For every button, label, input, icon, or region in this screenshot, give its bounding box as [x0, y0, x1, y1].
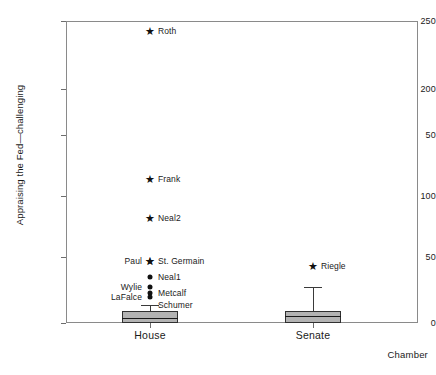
median-senate	[285, 316, 341, 317]
plot-area	[66, 21, 418, 323]
whisker-cap-house	[141, 305, 159, 306]
median-house	[122, 318, 178, 319]
x-axis-title: Chamber	[388, 350, 428, 360]
outlier-label: Riegle	[321, 262, 346, 271]
outlier-dot-icon	[148, 274, 153, 279]
x-tick-label-house: House	[134, 330, 165, 341]
outlier-label: LaFalce	[111, 292, 142, 301]
outlier-star-icon: ★	[308, 261, 318, 272]
outlier-star-icon: ★	[145, 255, 155, 266]
outlier-label: Neal2	[158, 213, 181, 222]
outlier-star-icon: ★	[145, 173, 155, 184]
outlier-label: Frank	[158, 174, 180, 183]
outlier-star-icon: ★	[145, 25, 155, 36]
outlier-star-icon: ★	[145, 212, 155, 223]
outlier-label: Roth	[158, 26, 176, 35]
outlier-label: Neal1	[158, 272, 181, 281]
y-tick-mark	[61, 323, 66, 324]
outlier-label: Schumer	[158, 300, 193, 309]
whisker-senate	[313, 287, 314, 311]
x-tick-mark	[313, 323, 314, 328]
whisker-cap-senate	[304, 287, 322, 288]
x-tick-label-senate: Senate	[296, 330, 330, 341]
boxplot-figure: Appraising the Fed—challenging 250200501…	[0, 0, 436, 375]
outlier-dot-icon	[148, 294, 153, 299]
y-axis-title: Appraising the Fed—challenging	[15, 45, 25, 265]
outlier-label: St. Germain	[158, 256, 204, 265]
y-axis-title-container: Appraising the Fed—challenging	[0, 0, 26, 323]
outlier-dot-icon	[148, 285, 153, 290]
x-tick-mark	[150, 323, 151, 328]
outlier-label: Metcalf	[158, 288, 186, 297]
outlier-label: Paul	[125, 256, 142, 265]
